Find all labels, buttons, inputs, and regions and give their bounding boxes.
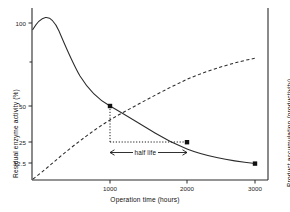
halflife-annotation-label: half life <box>133 149 158 156</box>
x-tick-label-3000: 3000 <box>240 185 270 192</box>
y-axis-title: Residual enzyme activity (%) <box>12 0 19 178</box>
chart-plot-area <box>0 0 290 212</box>
x-tick-label-2000: 2000 <box>172 185 202 192</box>
secondary-y-axis-title: Product accumulation (productivity) <box>286 7 290 187</box>
product-accumulation-curve <box>33 58 256 179</box>
residual-activity-curve <box>33 17 256 163</box>
data-point-markers <box>108 104 257 166</box>
marker-3000-12-5 <box>253 161 257 165</box>
x-axis-title: Operation time (hours) <box>0 196 290 203</box>
x-tick-label-1000: 1000 <box>95 185 125 192</box>
marker-1000-50 <box>108 104 112 108</box>
marker-2000-25 <box>185 140 189 144</box>
chart-figure: 100 50 25 12.5 1000 2000 3000 half life … <box>0 0 290 212</box>
